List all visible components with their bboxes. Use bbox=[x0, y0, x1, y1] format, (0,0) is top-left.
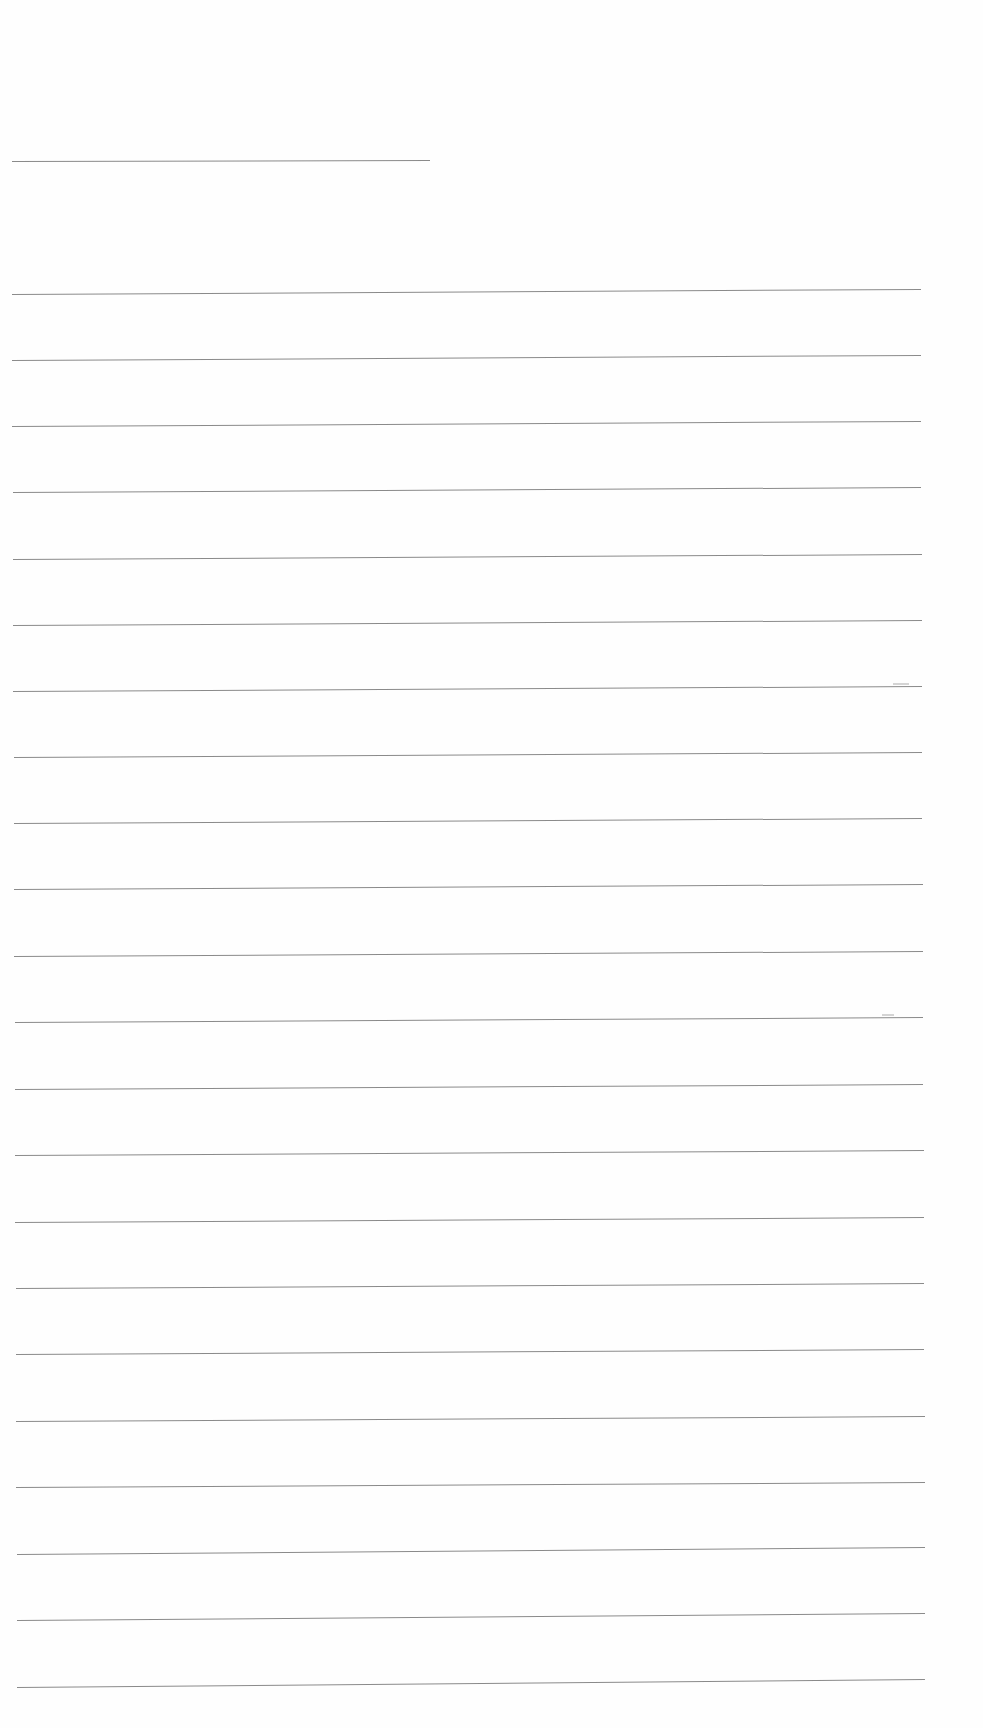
ruled-line bbox=[12, 355, 921, 361]
ruled-line bbox=[15, 1084, 923, 1090]
ruled-line bbox=[12, 289, 921, 295]
ruled-line bbox=[16, 1283, 924, 1289]
ruled-line bbox=[15, 1217, 924, 1223]
ruled-paper-page bbox=[0, 0, 983, 1728]
ruled-line bbox=[14, 818, 922, 824]
scan-artifact bbox=[893, 683, 909, 685]
ruled-line bbox=[16, 1349, 924, 1355]
scan-artifact bbox=[882, 1014, 894, 1016]
ruled-line bbox=[13, 554, 922, 560]
ruled-line bbox=[15, 1017, 923, 1023]
ruled-line bbox=[17, 1547, 925, 1555]
ruled-line bbox=[17, 1613, 925, 1621]
header-rule-line bbox=[12, 160, 430, 162]
ruled-line bbox=[17, 1679, 925, 1688]
ruled-line bbox=[13, 487, 921, 493]
ruled-line bbox=[13, 686, 922, 692]
ruled-line bbox=[16, 1482, 925, 1488]
ruled-line bbox=[12, 421, 921, 427]
ruled-line bbox=[14, 884, 923, 890]
ruled-line bbox=[16, 1416, 925, 1422]
ruled-line bbox=[13, 620, 922, 626]
ruled-line bbox=[14, 752, 922, 758]
ruled-line bbox=[14, 951, 923, 957]
ruled-line bbox=[15, 1150, 924, 1156]
